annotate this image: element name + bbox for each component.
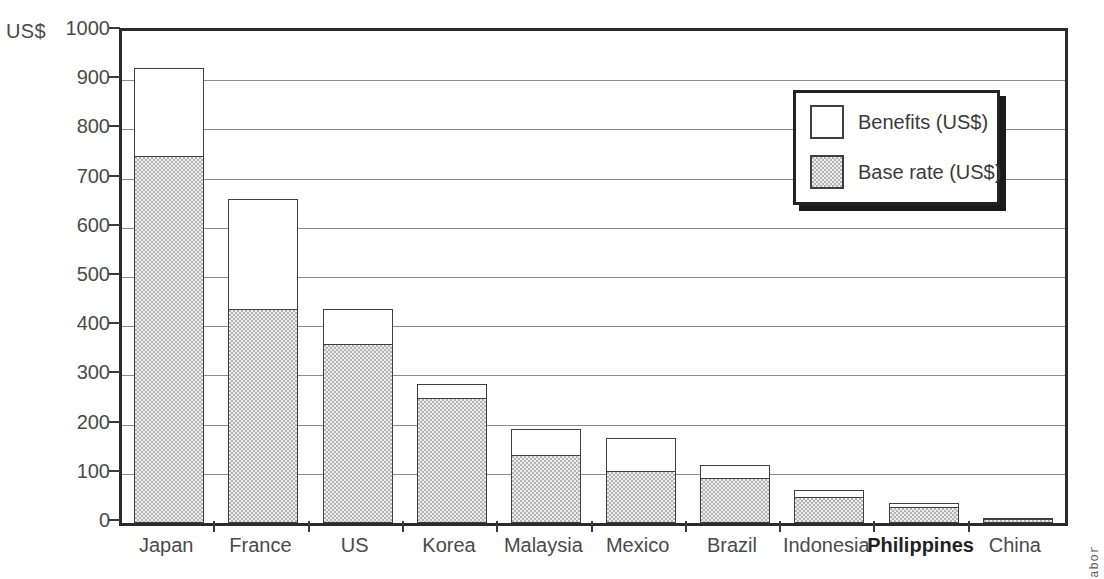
x-axis-category-tick: [873, 521, 875, 532]
y-axis-tick: [109, 125, 120, 127]
bar-segment-base-rate[interactable]: [700, 478, 770, 523]
bar-segment-base-rate[interactable]: [228, 309, 298, 523]
bar-stack[interactable]: [134, 68, 204, 523]
bar-stack[interactable]: [700, 465, 770, 523]
bar-slot: [122, 31, 216, 523]
y-axis-unit-label: US$: [6, 20, 46, 43]
bar-slot: [688, 31, 782, 523]
y-axis-tick: [109, 27, 120, 29]
y-axis-tick-label: 100: [50, 459, 110, 482]
y-axis-tick-label: 0: [50, 509, 110, 532]
y-axis-tick: [109, 322, 120, 324]
y-axis-tick-labels: 10009008007006005004003002001000: [50, 0, 110, 579]
bar-segment-benefits[interactable]: [606, 438, 676, 471]
x-axis-tick-label-philippines: Philippines: [867, 534, 974, 557]
x-axis-category-ticks: [119, 521, 1062, 533]
y-axis-tick-label: 700: [50, 164, 110, 187]
y-axis-tick-label: 600: [50, 213, 110, 236]
y-axis-tick-label: 400: [50, 312, 110, 335]
y-axis-tick: [109, 175, 120, 177]
y-axis-ticks: [109, 28, 119, 520]
x-axis-tick-label-us: US: [341, 534, 369, 557]
stacked-bar-chart: US$ 10009008007006005004003002001000 Jap…: [0, 0, 1104, 579]
bar-segment-base-rate[interactable]: [417, 398, 487, 523]
y-axis-tick: [109, 76, 120, 78]
x-axis-tick-label-mexico: Mexico: [606, 534, 669, 557]
y-axis-tick: [109, 421, 120, 423]
x-axis-tick-label-france: France: [229, 534, 291, 557]
y-axis-tick-label: 300: [50, 361, 110, 384]
bar-segment-benefits[interactable]: [417, 384, 487, 398]
bar-segment-benefits[interactable]: [228, 199, 298, 309]
x-axis-tick-label-china: China: [989, 534, 1041, 557]
x-axis-category-tick: [213, 521, 215, 532]
bar-segment-base-rate[interactable]: [511, 455, 581, 523]
bar-segment-base-rate[interactable]: [323, 344, 393, 523]
bar-slot: [216, 31, 310, 523]
bar-segment-benefits[interactable]: [323, 309, 393, 344]
bar-segment-benefits[interactable]: [794, 490, 864, 498]
y-axis-tick-label: 800: [50, 115, 110, 138]
bar-stack[interactable]: [417, 384, 487, 523]
y-axis-tick-label: 1000: [50, 17, 110, 40]
x-axis-category-tick: [779, 521, 781, 532]
legend-item-benefits[interactable]: Benefits (US$): [810, 105, 988, 139]
x-axis-tick-labels: JapanFranceUSKoreaMalaysiaMexicoBrazilIn…: [119, 534, 1062, 574]
bar-stack[interactable]: [794, 490, 864, 523]
legend-swatch-benefits-icon: [810, 105, 844, 139]
x-axis-tick-label-brazil: Brazil: [707, 534, 757, 557]
bar-segment-benefits[interactable]: [511, 429, 581, 455]
bar-stack[interactable]: [511, 429, 581, 523]
bar-stack[interactable]: [606, 438, 676, 523]
x-axis-category-tick: [685, 521, 687, 532]
bar-segment-benefits[interactable]: [700, 465, 770, 477]
bar-stack[interactable]: [323, 309, 393, 523]
x-axis-tick-label-japan: Japan: [139, 534, 194, 557]
y-axis-tick: [109, 224, 120, 226]
x-axis-tick-label-malaysia: Malaysia: [504, 534, 583, 557]
bar-segment-benefits[interactable]: [134, 68, 204, 157]
y-axis-tick: [109, 470, 120, 472]
x-axis-tick-label-korea: Korea: [422, 534, 475, 557]
bar-segment-base-rate[interactable]: [134, 156, 204, 523]
bar-slot: [594, 31, 688, 523]
x-axis-category-tick: [308, 521, 310, 532]
bar-slot: [311, 31, 405, 523]
x-axis-category-tick: [402, 521, 404, 532]
legend-swatch-base-rate-icon: [810, 155, 844, 189]
x-axis-category-tick: [968, 521, 970, 532]
legend-label-base-rate: Base rate (US$): [858, 161, 1001, 184]
y-axis-tick: [109, 273, 120, 275]
bar-slot: [499, 31, 593, 523]
source-note: Source: US Department of Labor: [1088, 545, 1102, 579]
x-axis-tick-label-indonesia: Indonesia: [783, 534, 870, 557]
x-axis-category-tick: [496, 521, 498, 532]
bar-segment-base-rate[interactable]: [794, 497, 864, 523]
bar-stack[interactable]: [228, 199, 298, 523]
legend-item-base-rate[interactable]: Base rate (US$): [810, 155, 1001, 189]
y-axis-tick-label: 900: [50, 66, 110, 89]
legend-label-benefits: Benefits (US$): [858, 111, 988, 134]
y-axis-tick: [109, 371, 120, 373]
bar-segment-base-rate[interactable]: [606, 471, 676, 523]
bar-slot: [405, 31, 499, 523]
y-axis-tick-label: 500: [50, 263, 110, 286]
x-axis-category-tick: [591, 521, 593, 532]
y-axis-tick-label: 200: [50, 410, 110, 433]
legend: Benefits (US$) Base rate (US$): [793, 90, 1000, 205]
